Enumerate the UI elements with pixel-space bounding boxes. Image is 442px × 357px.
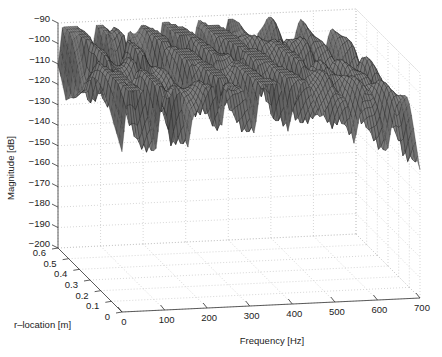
z-tick-label: −180 — [29, 197, 50, 208]
z-tick-label: −110 — [29, 54, 50, 65]
y-tick-label: 0.4 — [54, 268, 67, 279]
y-tick-label: 0.5 — [43, 258, 56, 269]
x-axis-label: Frequency [Hz] — [240, 335, 304, 346]
x-tick-label: 500 — [329, 306, 345, 317]
z-tick-label: −140 — [29, 115, 50, 126]
z-tick-label: −190 — [29, 218, 50, 229]
z-tick-label: −100 — [29, 33, 50, 44]
y-tick-label: 0.3 — [65, 279, 78, 290]
y-tick-label: 0.6 — [33, 247, 46, 258]
z-tick-label: −170 — [29, 177, 50, 188]
surface-mesh — [58, 17, 420, 170]
x-tick-label: 300 — [244, 310, 260, 321]
y-tick-label: 0 — [105, 311, 110, 322]
z-tick-label: −90 — [34, 13, 50, 24]
surface-plot-figure: −90−100−110−120−130−140−150−160−170−180−… — [0, 0, 442, 357]
x-tick-label: 700 — [414, 302, 430, 313]
x-tick-label: 0 — [121, 316, 126, 327]
x-tick-label: 400 — [286, 308, 302, 319]
z-tick-label: −120 — [29, 74, 50, 85]
y-axis-label: r–location [m] — [14, 319, 71, 330]
x-tick-label: 600 — [371, 304, 387, 315]
x-tick-label: 100 — [159, 314, 175, 325]
y-tick-label: 0.1 — [86, 300, 99, 311]
y-tick-label: 0.2 — [75, 290, 88, 301]
plot-canvas: −90−100−110−120−130−140−150−160−170−180−… — [0, 0, 442, 357]
z-tick-label: −150 — [29, 136, 50, 147]
z-tick-label: −160 — [29, 156, 50, 167]
z-tick-label: −130 — [29, 95, 50, 106]
x-tick-label: 200 — [201, 312, 217, 323]
z-axis-label: Magnitude [dB] — [5, 136, 16, 200]
